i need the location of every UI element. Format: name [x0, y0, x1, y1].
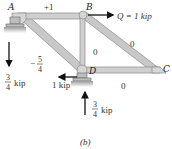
reaction-D-horizontal-label: 1 kip: [52, 80, 71, 90]
reaction-D-vertical-label: 3 4 kip: [92, 100, 113, 119]
force-AD-sign: −: [30, 58, 35, 68]
force-AD-denominator: 4: [38, 65, 42, 74]
load-Q-label: Q = 1 kip: [117, 11, 152, 21]
member-AD: [18, 13, 85, 71]
force-AB: +1: [44, 2, 54, 12]
truss-diagram: A B C D +1 0 0 0 − 5 4 Q = 1 kip 3 4 kip…: [0, 0, 172, 149]
reaction-A-label: 3 4 kip: [5, 73, 26, 92]
gusset-B: [79, 11, 87, 19]
reaction-D-unit: kip: [101, 105, 113, 115]
member-BC: [81, 12, 160, 73]
reaction-A-denominator: 4: [6, 83, 10, 92]
joint-label-A: A: [7, 2, 15, 12]
reaction-A-unit: kip: [14, 78, 26, 88]
reaction-D-denominator: 4: [93, 110, 97, 119]
member-AB: [18, 13, 84, 19]
figure-caption: (b): [80, 137, 91, 147]
force-DC: 0: [121, 81, 126, 91]
joint-label-D: D: [88, 66, 96, 76]
force-BC: 0: [130, 39, 135, 49]
force-AD: − 5 4: [30, 55, 43, 74]
joint-label-C: C: [163, 64, 170, 74]
reaction-D-numerator: 3: [93, 100, 97, 109]
joint-label-B: B: [85, 2, 93, 12]
force-BD: 0: [93, 47, 98, 57]
force-AD-numerator: 5: [38, 55, 42, 64]
reaction-A-numerator: 3: [6, 73, 10, 82]
member-BD: [80, 16, 85, 68]
